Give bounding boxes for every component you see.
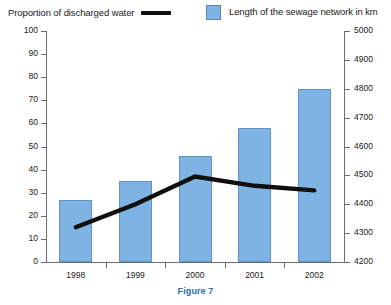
legend-label-bar-series: Length of the sewage network in km (229, 7, 378, 17)
figure-caption: Figure 7 (0, 286, 391, 296)
line-swatch-icon (141, 11, 171, 15)
plot-area: 0102030405060708090100 42004300440045004… (0, 26, 391, 278)
line-path (76, 177, 314, 228)
legend-item-line-series: Proportion of discharged water (8, 2, 171, 24)
legend-label-line-series: Proportion of discharged water (8, 8, 134, 18)
figure-container: Proportion of discharged water Length of… (0, 0, 391, 305)
legend-item-bar-series: Length of the sewage network in km (206, 1, 378, 23)
square-swatch-icon (206, 5, 221, 20)
chart-legend: Proportion of discharged water Length of… (0, 0, 391, 26)
line-series (0, 26, 391, 278)
